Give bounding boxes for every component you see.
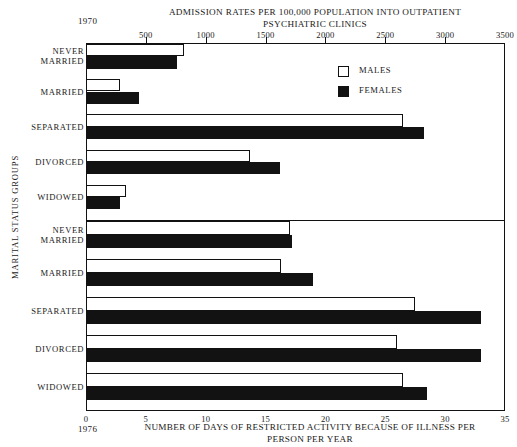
bar-upper-never-married-males [86,44,184,56]
bar-lower-married-males [86,259,281,273]
x-tick-label: 10 [201,414,210,424]
legend-label-males: MALES [359,65,391,75]
bar-upper-widowed-males [86,185,126,197]
category-label-divorced: DIVORCED [2,344,84,354]
bar-lower-separated-females [86,311,481,325]
legend-swatch-females-icon [338,86,349,97]
bar-upper-widowed-females [86,197,120,209]
bar-lower-separated-males [86,297,415,311]
bar-lower-widowed-males [86,373,403,387]
bar-lower-never-married-males [86,221,290,235]
x-tick-label: 15 [261,414,270,424]
category-label-married: MARRIED [2,87,84,97]
category-label-married: MARRIED [2,268,84,278]
x-tick-label: 35 [500,414,509,424]
bar-lower-never-married-females [86,235,292,249]
x-tick-label: 0 [84,414,89,424]
legend-label-females: FEMALES [359,85,402,95]
bar-upper-separated-males [86,114,403,126]
category-label-divorced: DIVORCED [2,157,84,167]
bottom-chart-title: NUMBER OF DAYS OF RESTRICTED ACTIVITY BE… [130,422,490,445]
figure-canvas: ADMISSION RATES PER 100,000 POPULATION I… [0,0,517,447]
bar-upper-separated-females [86,127,424,139]
top-chart-title: ADMISSION RATES PER 100,000 POPULATION I… [150,7,480,30]
bar-lower-widowed-females [86,387,427,401]
category-label-separated: SEPARATED [2,122,84,132]
bar-lower-divorced-females [86,349,481,363]
category-label-column: NEVER MARRIEDMARRIEDSEPARATEDDIVORCEDWID… [0,0,84,447]
bar-upper-divorced-females [86,162,280,174]
category-label-widowed: WIDOWED [2,382,84,392]
x-tick-label: 3500 [496,30,514,40]
x-tick-label: 5 [144,414,149,424]
x-tick-label: 25 [381,414,390,424]
category-label-never-married: NEVER MARRIED [2,225,84,245]
category-label-never-married: NEVER MARRIED [2,46,84,66]
category-label-widowed: WIDOWED [2,192,84,202]
bar-upper-divorced-males [86,150,250,162]
legend-swatch-males-icon [338,66,349,77]
bar-lower-married-females [86,273,313,287]
category-label-separated: SEPARATED [2,306,84,316]
bar-upper-married-females [86,92,139,104]
x-tick-label: 20 [321,414,330,424]
bar-upper-married-males [86,79,120,91]
x-tick-label: 30 [441,414,450,424]
bar-upper-never-married-females [86,56,177,68]
bar-lower-divorced-males [86,335,397,349]
